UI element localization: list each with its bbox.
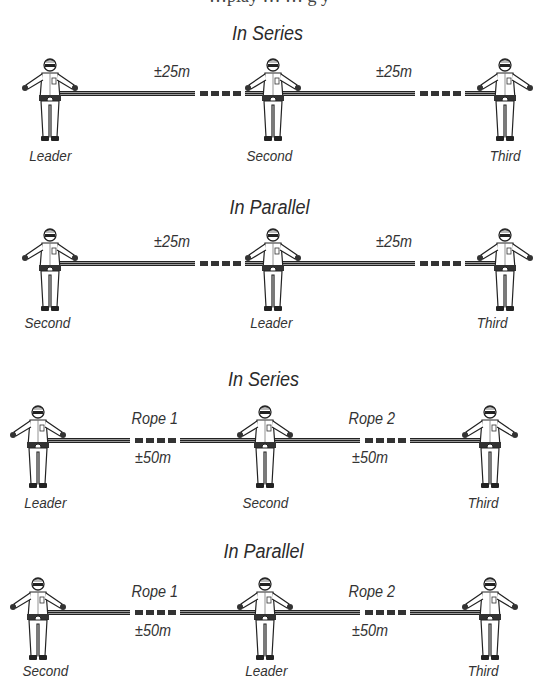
distance-label: ±50m <box>352 449 388 467</box>
diagram-title: In Parallel <box>229 196 309 219</box>
climber-figure-icon <box>473 225 537 315</box>
climber-figure-icon <box>473 55 537 145</box>
role-label: Leader <box>24 494 66 511</box>
distance-label: ±25m <box>376 63 412 81</box>
role-label: Second <box>23 662 69 679</box>
climber-figure-icon <box>458 402 522 492</box>
role-label: Third <box>490 147 521 164</box>
diagram-title: In Parallel <box>223 540 303 563</box>
climber-figure-icon <box>233 402 297 492</box>
climber-figure-icon <box>241 55 305 145</box>
climber-figure-icon <box>6 402 70 492</box>
rope-name-label: Rope 1 <box>132 583 178 601</box>
rope-name-label: Rope 2 <box>349 410 395 428</box>
distance-label: ±50m <box>352 622 388 640</box>
diagram-title: In Series <box>228 368 299 391</box>
distance-label: ±50m <box>135 449 171 467</box>
rope-name-label: Rope 2 <box>349 583 395 601</box>
climber-figure-icon <box>18 55 82 145</box>
role-label: Leader <box>250 314 292 331</box>
role-label: Leader <box>29 147 71 164</box>
role-label: Third <box>468 494 499 511</box>
climber-figure-icon <box>18 225 82 315</box>
role-label: Second <box>25 314 71 331</box>
clipped-header-text: …play … … g y <box>0 0 539 7</box>
role-label: Second <box>243 494 289 511</box>
role-label: Third <box>477 314 508 331</box>
climber-figure-icon <box>233 574 297 664</box>
distance-label: ±25m <box>154 63 190 81</box>
role-label: Leader <box>245 662 287 679</box>
diagram-title: In Series <box>232 22 303 45</box>
climber-figure-icon <box>241 225 305 315</box>
distance-label: ±25m <box>376 233 412 251</box>
rope-name-label: Rope 1 <box>132 410 178 428</box>
climber-figure-icon <box>458 574 522 664</box>
climber-figure-icon <box>6 574 70 664</box>
role-label: Second <box>247 147 293 164</box>
distance-label: ±50m <box>135 622 171 640</box>
distance-label: ±25m <box>154 233 190 251</box>
role-label: Third <box>468 662 499 679</box>
